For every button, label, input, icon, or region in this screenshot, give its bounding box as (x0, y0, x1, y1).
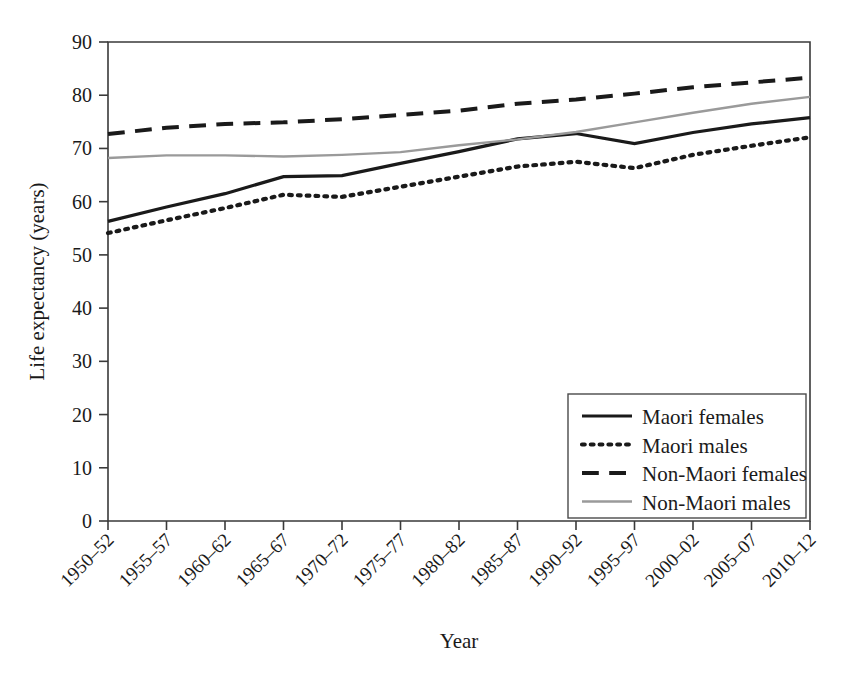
y-tick-label: 0 (82, 510, 92, 532)
legend-label: Non-Maori females (642, 462, 807, 486)
x-tick-label: 2000–02 (641, 529, 703, 591)
x-tick-label: 1975–77 (348, 529, 410, 591)
x-tick-label: 2010–12 (758, 529, 820, 591)
x-tick-label: 1985–87 (465, 529, 527, 591)
x-axis: 1950–521955–571960–621965–671970–721975–… (56, 521, 820, 591)
x-tick-label: 1955–57 (114, 529, 176, 591)
x-tick-label: 2005–07 (699, 529, 761, 591)
life-expectancy-chart: 0102030405060708090Life expectancy (year… (0, 0, 856, 674)
y-tick-label: 20 (72, 404, 92, 426)
y-tick-label: 50 (72, 244, 92, 266)
y-tick-label: 60 (72, 191, 92, 213)
x-tick-label: 1995–97 (582, 529, 644, 591)
y-tick-label: 90 (72, 31, 92, 53)
series-line-non-maori-males (108, 97, 810, 158)
y-tick-label: 70 (72, 137, 92, 159)
x-tick-label: 1950–52 (56, 529, 118, 591)
y-axis-title: Life expectancy (years) (25, 182, 49, 380)
x-tick-label: 1970–72 (290, 529, 352, 591)
series-line-non-maori-females (108, 78, 810, 134)
legend-label: Non-Maori males (642, 491, 791, 515)
y-tick-label: 10 (72, 457, 92, 479)
legend: Maori femalesMaori malesNon-Maori female… (568, 394, 807, 518)
x-tick-label: 1980–82 (407, 529, 469, 591)
series-line-maori-females (108, 118, 810, 222)
legend-label: Maori males (642, 434, 748, 458)
x-axis-title: Year (440, 629, 479, 653)
x-tick-label: 1965–67 (231, 529, 293, 591)
chart-canvas: 0102030405060708090Life expectancy (year… (0, 0, 856, 674)
legend-label: Maori females (642, 405, 764, 429)
y-tick-label: 80 (72, 84, 92, 106)
y-tick-label: 30 (72, 350, 92, 372)
x-tick-label: 1990–92 (524, 529, 586, 591)
series-group (108, 78, 810, 233)
x-tick-label: 1960–62 (173, 529, 235, 591)
y-tick-label: 40 (72, 297, 92, 319)
y-axis: 0102030405060708090 (72, 31, 108, 532)
